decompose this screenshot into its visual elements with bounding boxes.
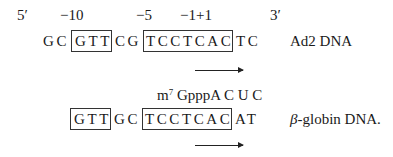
globin-transcription-arrow-icon [195, 145, 243, 146]
cap-structure-label: m7 GpppA C U C [157, 88, 262, 103]
ad2-dna-label: Ad2 DNA [290, 34, 352, 49]
ad2-box1-text: GTT [75, 34, 112, 49]
globin-suffix: AT [235, 112, 259, 127]
three-prime-label: 3′ [270, 8, 281, 23]
ad2-suffix: TC [236, 34, 260, 49]
globin-dna-label: β-globin DNA. [290, 112, 381, 127]
globin-box2-text: TCCTCAC [145, 112, 232, 127]
position-minus-5: −5 [136, 8, 152, 23]
ad2-transcription-arrow-icon [195, 70, 243, 71]
ad2-middle: CG [115, 34, 141, 49]
position-minus-1-plus-1: −1+1 [180, 8, 212, 23]
globin-middle: GC [114, 112, 140, 127]
ad2-prefix: GC [43, 34, 69, 49]
ad2-box2-text: TCCTCAC [146, 34, 233, 49]
globin-box1-text: GTT [74, 112, 111, 127]
position-minus-10: −10 [60, 8, 83, 23]
five-prime-label: 5′ [17, 8, 28, 23]
